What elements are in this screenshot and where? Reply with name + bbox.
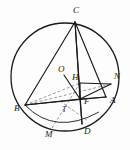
point-label-F: F [83, 96, 90, 106]
solid-segments-group [25, 22, 111, 124]
segment-B-F [25, 99, 80, 105]
segment-H-N [80, 83, 111, 84]
point-label-O: O [58, 64, 65, 74]
point-label-A: A [109, 95, 116, 105]
geometry-figure: C N A B D M O H F T [0, 0, 130, 150]
point-label-D: D [83, 126, 91, 136]
point-label-T: T [62, 105, 67, 114]
point-label-H: H [71, 72, 79, 82]
geometry-canvas: C N A B D M O H F T [0, 0, 130, 150]
point-label-C: C [73, 5, 80, 15]
point-label-N: N [113, 71, 121, 81]
point-label-M: M [44, 129, 53, 139]
point-label-B: B [14, 103, 20, 113]
